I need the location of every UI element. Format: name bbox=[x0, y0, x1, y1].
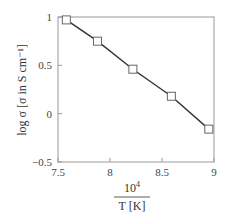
square-marker-icon bbox=[167, 92, 175, 100]
y-axis-label: log σ [σ in S cm⁻¹] bbox=[15, 44, 29, 136]
square-marker-icon bbox=[129, 65, 137, 73]
x-tick-label: 8 bbox=[107, 166, 113, 178]
y-tick-label: 0 bbox=[47, 108, 53, 120]
y-tick-label: −0.5 bbox=[32, 156, 52, 168]
y-tick-label: 0.5 bbox=[38, 59, 52, 71]
x-tick-label: 8.5 bbox=[155, 166, 169, 178]
series-line bbox=[66, 20, 208, 129]
plot-border bbox=[58, 17, 214, 162]
x-label-exponent: 4 bbox=[136, 180, 140, 189]
x-label-numerator: 10 bbox=[124, 181, 136, 195]
x-axis-ticks: 7.588.59 bbox=[51, 158, 217, 178]
square-marker-icon bbox=[62, 16, 70, 24]
x-label-denominator: T [K] bbox=[119, 199, 146, 213]
x-tick-label: 7.5 bbox=[51, 166, 65, 178]
data-series bbox=[62, 16, 212, 133]
x-tick-label: 9 bbox=[211, 166, 217, 178]
svg-text:104: 104 bbox=[124, 180, 140, 195]
y-label-text: log σ [σ in S cm⁻¹] bbox=[15, 44, 29, 136]
square-marker-icon bbox=[205, 125, 213, 133]
y-tick-label: 1 bbox=[47, 11, 53, 23]
plot-frame bbox=[58, 17, 214, 162]
chart: 7.588.59 −0.500.51 104 T [K] log σ [σ in… bbox=[0, 0, 231, 220]
x-axis-label: 104 T [K] bbox=[114, 180, 150, 213]
square-marker-icon bbox=[94, 37, 102, 45]
